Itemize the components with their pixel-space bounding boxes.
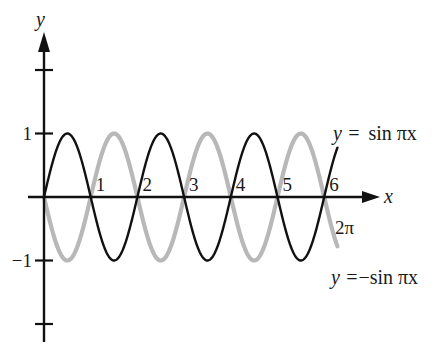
domain-end-label: 2π xyxy=(335,217,355,238)
chart-svg: 1−1 123456 x y 2π y =sin πx y =−sin πx xyxy=(0,0,440,345)
series-label-sin-prefix: y = xyxy=(331,122,360,145)
series-label-sin: y =sin πx xyxy=(331,122,417,145)
y-axis-label: y xyxy=(34,8,45,31)
x-tick-label: 4 xyxy=(236,174,246,195)
series-label-negsin: y =−sin πx xyxy=(329,266,418,289)
x-tick-label: 5 xyxy=(283,174,293,195)
y-tick-label: −1 xyxy=(12,250,32,271)
series-label-negsin-func: −sin πx xyxy=(358,266,418,288)
x-axis-arrow-icon xyxy=(362,191,380,203)
series-label-sin-func: sin πx xyxy=(368,122,416,144)
x-tick-label: 1 xyxy=(96,174,106,195)
y-tick-label: 1 xyxy=(23,123,33,144)
svg-text:y =−sin πx: y =−sin πx xyxy=(329,266,418,289)
y-axis-arrow-icon xyxy=(38,32,50,52)
series-label-negsin-prefix: y = xyxy=(329,266,358,289)
x-tick-label: 3 xyxy=(189,174,199,195)
x-tick-label: 2 xyxy=(142,174,152,195)
x-axis-label: x xyxy=(383,185,393,207)
svg-text:y =sin πx: y =sin πx xyxy=(331,122,417,145)
x-tick-label: 6 xyxy=(329,174,339,195)
